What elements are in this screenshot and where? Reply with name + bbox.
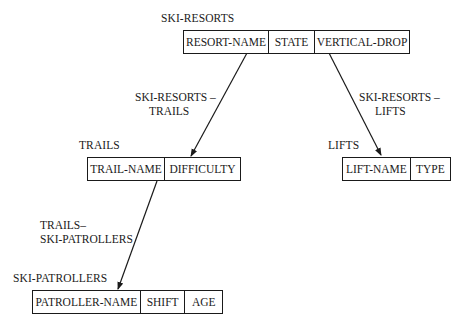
field-resort-name: RESORT-NAME	[184, 31, 269, 53]
record-title-trails: TRAILS	[79, 139, 120, 152]
field-patroller-name: PATROLLER-NAME	[33, 291, 141, 313]
record-trails: TRAIL-NAME DIFFICULTY	[87, 157, 241, 181]
record-lifts: LIFT-NAME TYPE	[342, 157, 451, 181]
record-title-lifts: LIFTS	[328, 139, 359, 152]
field-difficulty: DIFFICULTY	[165, 158, 240, 180]
field-type: TYPE	[411, 158, 450, 180]
field-age: AGE	[185, 291, 222, 313]
relationship-line2: LIFTS	[359, 104, 440, 118]
field-vertical-drop: VERTICAL-DROP	[315, 31, 409, 53]
relationship-line2: SKI-PATROLLERS	[40, 232, 133, 246]
field-shift: SHIFT	[141, 291, 186, 313]
relationship-label-trails-patrollers: TRAILS– SKI-PATROLLERS	[40, 218, 133, 246]
field-state: STATE	[269, 31, 315, 53]
field-trail-name: TRAIL-NAME	[88, 158, 165, 180]
record-title-ski-patrollers: SKI-PATROLLERS	[13, 272, 107, 285]
record-ski-patrollers: PATROLLER-NAME SHIFT AGE	[32, 290, 223, 314]
relationship-line1: SKI-RESORTS –	[359, 90, 440, 104]
relationship-line2: TRAILS	[135, 104, 216, 118]
relationship-line1: SKI-RESORTS –	[135, 90, 216, 104]
record-ski-resorts: RESORT-NAME STATE VERTICAL-DROP	[183, 30, 410, 54]
relationship-label-resorts-trails: SKI-RESORTS – TRAILS	[135, 90, 216, 118]
relationship-label-resorts-lifts: SKI-RESORTS – LIFTS	[359, 90, 440, 118]
record-title-ski-resorts: SKI-RESORTS	[161, 12, 234, 25]
field-lift-name: LIFT-NAME	[343, 158, 411, 180]
relationship-line1: TRAILS–	[40, 218, 133, 232]
